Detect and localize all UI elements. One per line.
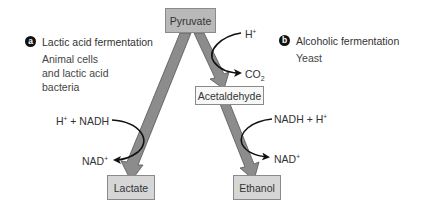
flow-arrow-pyruvate-to-acetaldehyde (194, 33, 229, 89)
node-ethanol-label: Ethanol (239, 182, 275, 194)
panel-b-organism: Yeast (296, 51, 322, 65)
badge-b: b (279, 35, 290, 46)
node-pyruvate-label: Pyruvate (170, 15, 211, 27)
node-lactate: Lactate (107, 175, 155, 200)
cofactor-alc1-in: H+ (245, 29, 256, 40)
cofactor-alc2-in: NADH + H+ (274, 114, 327, 125)
flow-arrow-acetaldehyde-to-ethanol (220, 104, 259, 180)
cofactor-alc1-out: CO2 (245, 69, 265, 80)
panel-a-organism-line-1: Animal cells (42, 52, 98, 66)
node-ethanol: Ethanol (233, 175, 281, 200)
badge-a: a (25, 36, 36, 47)
panel-b-title: Alcoholic fermentation (296, 36, 399, 47)
node-acetaldehyde: Acetaldehyde (195, 86, 264, 105)
cofactor-lactic-out: NAD+ (82, 156, 108, 167)
node-pyruvate: Pyruvate (165, 8, 216, 33)
node-lactate-label: Lactate (114, 182, 148, 194)
node-acetaldehyde-label: Acetaldehyde (198, 90, 262, 102)
cofactor-lactic-in: H+ + NADH (56, 116, 109, 127)
cofactor-alc2-out: NAD+ (274, 154, 300, 165)
panel-a-organism-line-2: and lactic acid (42, 66, 109, 80)
panel-a-title: Lactic acid fermentation (42, 37, 153, 48)
panel-a-organism-line-3: bacteria (42, 80, 79, 94)
flow-arrow-pyruvate-to-lactate (121, 33, 191, 181)
